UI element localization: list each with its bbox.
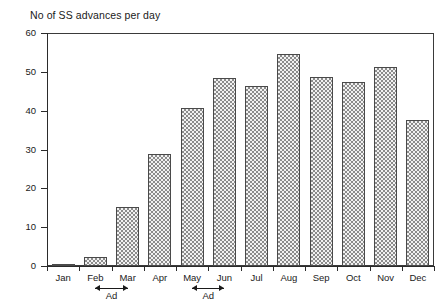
- x-axis-tick: [47, 267, 48, 271]
- bars-layer: [47, 33, 434, 266]
- bar: [148, 154, 171, 266]
- chart-title: No of SS advances per day: [30, 9, 160, 21]
- x-axis-tick: [273, 267, 274, 271]
- ad-label: Ad: [192, 290, 224, 301]
- x-axis-tick-label: Dec: [398, 272, 438, 283]
- bar: [213, 78, 236, 266]
- ad-label: Ad: [95, 290, 127, 301]
- x-axis-tick: [79, 267, 80, 271]
- y-axis-tick-label: 0: [0, 260, 36, 271]
- x-axis-tick: [112, 267, 113, 271]
- bar: [342, 82, 365, 266]
- x-axis-tick: [402, 267, 403, 271]
- bar: [181, 108, 204, 266]
- y-axis-tick-label: 20: [0, 182, 36, 193]
- bar: [277, 54, 300, 266]
- y-axis-tick-label: 50: [0, 66, 36, 77]
- x-axis-tick: [434, 267, 435, 271]
- bar: [52, 264, 75, 266]
- bar: [406, 120, 429, 266]
- x-axis-tick: [337, 267, 338, 271]
- y-axis-tick-label: 40: [0, 105, 36, 116]
- y-axis-tick-label: 30: [0, 144, 36, 155]
- x-axis-tick: [370, 267, 371, 271]
- bar: [310, 77, 333, 266]
- x-axis-tick: [144, 267, 145, 271]
- bar: [374, 67, 397, 266]
- x-axis-tick: [241, 267, 242, 271]
- bar: [116, 207, 139, 266]
- bar: [84, 257, 107, 266]
- x-axis-tick: [176, 267, 177, 271]
- bar: [245, 86, 268, 266]
- x-axis-tick: [305, 267, 306, 271]
- y-axis-tick-label: 60: [0, 27, 36, 38]
- y-axis-tick-label: 10: [0, 221, 36, 232]
- x-axis-tick: [208, 267, 209, 271]
- bar-chart: No of SS advances per day 0102030405060 …: [0, 0, 447, 304]
